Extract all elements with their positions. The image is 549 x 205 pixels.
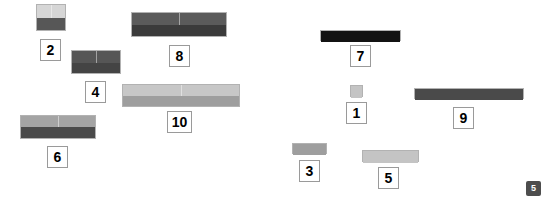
rod-label-2: 2	[40, 39, 61, 61]
rod-9	[414, 88, 524, 99]
rod-label-5: 5	[378, 167, 399, 189]
rod-top-row	[363, 151, 418, 163]
rod-unit-cell	[21, 116, 58, 127]
rod-bar	[20, 115, 96, 139]
rod-unit-cell	[293, 144, 326, 155]
rod-bar	[292, 143, 327, 154]
rod-unit-cell	[132, 13, 179, 25]
rod-unit-cell	[363, 151, 418, 163]
rod-unit-cell	[181, 85, 240, 96]
rod-top-row	[123, 85, 239, 96]
rod-unit-cell	[123, 85, 181, 96]
rod-bar	[122, 84, 240, 107]
rod-1	[350, 85, 363, 97]
rod-3	[292, 143, 327, 154]
rod-6	[20, 115, 96, 139]
rod-unit-cell	[321, 31, 400, 42]
rod-label-10: 10	[167, 111, 192, 133]
rod-2	[36, 4, 66, 31]
rod-4	[71, 50, 121, 74]
rod-unit-cell	[415, 89, 523, 100]
rod-top-row	[132, 13, 226, 25]
rod-bottom-row	[72, 63, 120, 73]
rod-top-row	[293, 144, 326, 155]
rod-7	[320, 30, 401, 41]
rod-unit-cell	[351, 86, 362, 98]
rod-top-row	[321, 31, 400, 42]
rod-unit-cell	[72, 51, 96, 63]
rod-5	[362, 150, 419, 162]
rod-unit-cell	[51, 5, 66, 18]
rod-top-row	[415, 89, 523, 100]
rod-top-row	[72, 51, 120, 63]
rod-label-6: 6	[47, 146, 68, 168]
rod-unit-cell	[37, 5, 51, 18]
diagram-canvas: 284106719355	[0, 0, 549, 205]
rod-bottom-row	[123, 96, 239, 106]
rod-bar	[71, 50, 121, 74]
rod-unit-cell	[179, 13, 227, 25]
rod-bar	[350, 85, 363, 97]
rod-unit-cell	[58, 116, 96, 127]
rod-label-9: 9	[453, 107, 474, 129]
rod-label-8: 8	[169, 45, 190, 67]
rod-top-row	[21, 116, 95, 127]
rod-10	[122, 84, 240, 107]
rod-bar	[131, 12, 227, 37]
rod-top-row	[37, 5, 65, 18]
rod-label-4: 4	[85, 81, 106, 103]
rod-label-7: 7	[350, 45, 371, 67]
rod-unit-cell	[96, 51, 121, 63]
rod-label-3: 3	[299, 160, 320, 182]
rod-bar	[414, 88, 524, 99]
rod-bar	[362, 150, 419, 162]
rod-bottom-row	[21, 127, 95, 138]
rod-8	[131, 12, 227, 37]
rod-bottom-row	[132, 25, 226, 36]
rod-label-1: 1	[346, 102, 367, 124]
rod-bottom-row	[37, 18, 65, 30]
rod-bar	[320, 30, 401, 41]
rod-top-row	[351, 86, 362, 98]
page-number-badge: 5	[526, 181, 541, 196]
rod-bar	[36, 4, 66, 31]
